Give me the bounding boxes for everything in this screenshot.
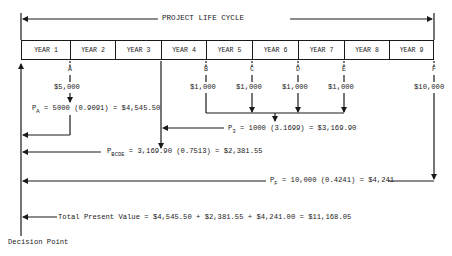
- amount-e: $1,000: [328, 83, 354, 92]
- equation-expression: = 3,169.90 (0.7513) = $2,381.55: [129, 147, 263, 155]
- amount-f: $10,000: [414, 83, 444, 92]
- year-label: YEAR 1: [34, 47, 58, 54]
- year-label: YEAR 9: [400, 47, 424, 54]
- equation-pa: PA = 5000 (0.9091) = $4,545.50: [32, 104, 160, 113]
- point-label-b: B: [204, 66, 208, 73]
- equation-total: Total Present Value = $4,545.50 + $2,381…: [58, 213, 351, 222]
- decision-point-label: Decision Point: [8, 238, 68, 247]
- year-box-2: YEAR 2: [70, 40, 115, 60]
- year-box-7: YEAR 7: [298, 40, 344, 60]
- year-label: YEAR 8: [355, 47, 379, 54]
- year-label: YEAR 2: [81, 47, 105, 54]
- equation-expression: = 10,000 (0.4241) = $4,241: [282, 176, 394, 184]
- point-label-d: D: [296, 66, 300, 73]
- year-label: YEAR 6: [264, 47, 288, 54]
- amount-b: $1,000: [190, 83, 216, 92]
- amount-d: $1,000: [282, 83, 308, 92]
- year-box-6: YEAR 6: [252, 40, 298, 60]
- year-label: YEAR 3: [127, 47, 151, 54]
- equation-expression: = 5000 (0.9091) = $4,545.50: [44, 104, 160, 112]
- project-life-cycle-title: PROJECT LIFE CYCLE: [162, 14, 244, 23]
- point-label-a: A: [68, 66, 72, 73]
- equation-subscript: BCDE: [111, 151, 124, 158]
- year-box-4: YEAR 4: [161, 40, 206, 60]
- point-label-f: F: [432, 66, 436, 73]
- equation-pbcde: PBCDE = 3,169.90 (0.7513) = $2,381.55: [107, 147, 263, 156]
- equation-subscript: 3: [232, 128, 235, 135]
- year-label: YEAR 4: [172, 47, 196, 54]
- equation-pf: PF = 10,000 (0.4241) = $4,241: [270, 176, 394, 185]
- point-label-c: C: [250, 66, 254, 73]
- point-label-e: E: [342, 66, 346, 73]
- year-box-8: YEAR 8: [344, 40, 389, 60]
- amount-c: $1,000: [236, 83, 262, 92]
- total-label: Total Present Value: [58, 213, 140, 221]
- year-box-9: YEAR 9: [389, 40, 434, 60]
- year-label: YEAR 5: [218, 47, 242, 54]
- year-box-1: YEAR 1: [21, 40, 70, 60]
- total-expression: = $4,545.50 + $2,381.55 + $4,241.00 = $1…: [144, 213, 351, 221]
- equation-p3: P3 = 1000 (3.1699) = $3,169.90: [228, 124, 356, 133]
- year-box-5: YEAR 5: [206, 40, 252, 60]
- equation-subscript: A: [36, 108, 39, 115]
- year-label: YEAR 7: [310, 47, 334, 54]
- equation-expression: = 1000 (3.1699) = $3,169.90: [240, 124, 356, 132]
- amount-a: $5,000: [54, 83, 80, 92]
- year-box-3: YEAR 3: [115, 40, 161, 60]
- equation-subscript: F: [274, 180, 277, 187]
